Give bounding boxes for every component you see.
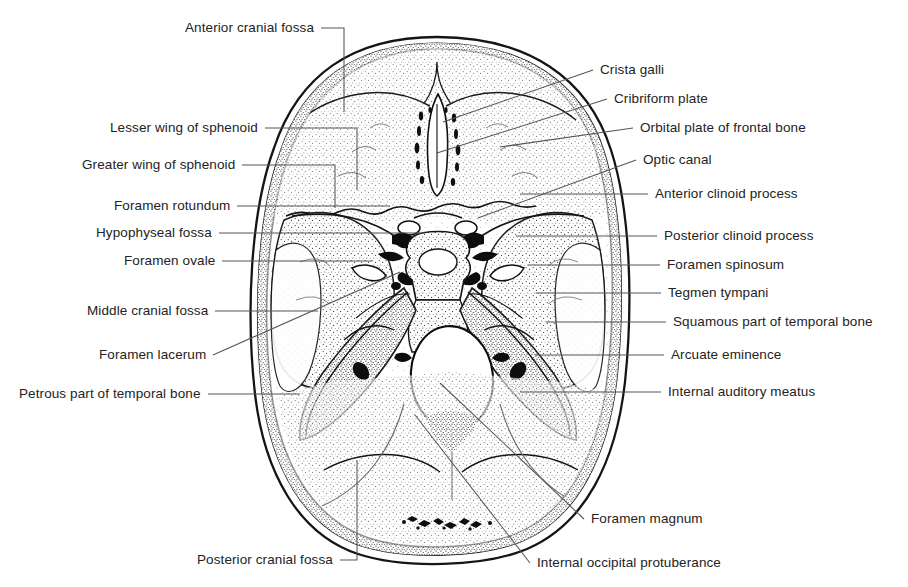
label-foramen-magnum: Foramen magnum xyxy=(591,512,703,526)
label-hypophyseal-fossa: Hypophyseal fossa xyxy=(96,226,212,240)
label-anterior-clinoid-process: Anterior clinoid process xyxy=(655,187,798,201)
label-squamous-part-of-temporal-bone: Squamous part of temporal bone xyxy=(673,315,873,329)
label-foramen-lacerum: Foramen lacerum xyxy=(99,348,206,362)
label-orbital-plate-of-frontal-bone: Orbital plate of frontal bone xyxy=(640,121,806,135)
label-foramen-ovale: Foramen ovale xyxy=(124,254,215,268)
label-greater-wing-of-sphenoid: Greater wing of sphenoid xyxy=(82,158,235,172)
label-crista-galli: Crista galli xyxy=(600,63,664,77)
label-middle-cranial-fossa: Middle cranial fossa xyxy=(87,304,208,318)
label-foramen-spinosum: Foramen spinosum xyxy=(667,258,784,272)
skull-base-illustration xyxy=(0,0,908,587)
label-tegmen-tympani: Tegmen tympani xyxy=(668,286,768,300)
label-internal-occipital-protuberance: Internal occipital protuberance xyxy=(537,556,721,570)
hypophyseal-fossa xyxy=(419,249,457,275)
label-internal-auditory-meatus: Internal auditory meatus xyxy=(668,385,815,399)
label-cribriform-plate: Cribriform plate xyxy=(614,92,708,106)
label-posterior-cranial-fossa: Posterior cranial fossa xyxy=(197,553,333,567)
label-anterior-cranial-fossa: Anterior cranial fossa xyxy=(185,21,314,35)
label-foramen-rotundum: Foramen rotundum xyxy=(114,199,230,213)
label-petrous-part-of-temporal-bone: Petrous part of temporal bone xyxy=(19,387,201,401)
label-posterior-clinoid-process: Posterior clinoid process xyxy=(664,229,814,243)
label-lesser-wing-of-sphenoid: Lesser wing of sphenoid xyxy=(110,121,258,135)
label-optic-canal: Optic canal xyxy=(643,153,712,167)
label-arcuate-eminence: Arcuate eminence xyxy=(671,348,781,362)
skull-base-diagram: Anterior cranial fossaLesser wing of sph… xyxy=(0,0,908,587)
